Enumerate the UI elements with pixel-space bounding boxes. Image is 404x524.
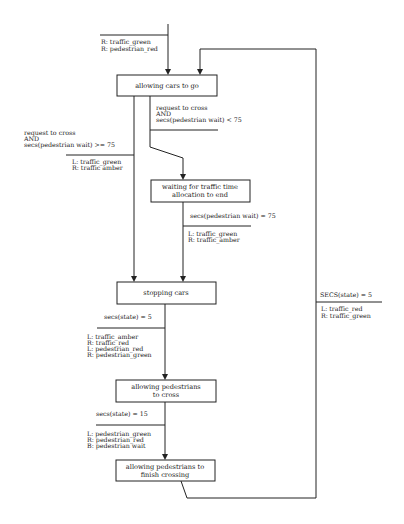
condition-label: secs(pedestrian wait) = 75 [190,212,276,220]
condition-label: SECS(state) = 5 [320,291,372,298]
state-label: stopping cars [143,289,189,297]
arrow-head-icon [180,174,186,180]
arrow-head-icon [162,454,168,460]
state-label: allocation to end [172,191,229,199]
state-label: waiting for traffic time [162,183,238,191]
state-stopping-cars: stopping cars [117,282,216,304]
state-label: allowing cars to go [135,82,199,90]
state-allowing-pedestrians-to-finish-crossing: allowing pedestrians to finish crossing [116,460,215,481]
action-label: R: pedestrian_green [87,351,152,359]
state-allowing-pedestrians-to-cross: allowing pedestrians to cross [116,380,216,402]
transition-s1-to-s2: request to cross AND secs(pedestrian wai… [150,96,242,180]
state-label: finish crossing [141,471,190,479]
state-transition-diagram: R: traffic_green R: pedestrian_red SECS(… [0,0,404,524]
transition-s4-to-s5: secs(state) = 15 L: pedestrian_green R: … [87,402,168,460]
state-allowing-cars-to-go: allowing cars to go [117,75,217,96]
action-label: R: traffic amber [72,164,124,171]
transition-s1-to-s3: request to cross AND secs(pedestrian wai… [23,96,137,282]
transition-s3-to-s4: secs(state) = 5 L: traffic_amber R: traf… [87,304,168,380]
arrow-head-icon [197,69,203,75]
state-label: allowing pedestrians to [126,463,204,471]
action-label: R: traffic_green [321,312,371,320]
action-label: R: traffic_amber [188,236,241,244]
transition-s2-to-s3: secs(pedestrian wait) = 75 L: traffic_gr… [180,202,276,282]
condition-label: secs(state) = 5 [104,313,152,320]
state-label: allowing pedestrians [131,383,201,391]
arrow-head-icon [165,69,171,75]
condition-label: secs(state) = 15 [96,410,148,417]
state-label: to cross [153,391,180,399]
transition-init: R: traffic_green R: pedestrian_red [100,24,171,75]
state-waiting-for-traffic-time: waiting for traffic time allocation to e… [151,180,250,202]
condition-label: secs(pedestrian wait) >= 75 [24,141,115,149]
action-label: R: pedestrian_red [101,45,158,53]
arrow-head-icon [180,276,186,282]
arrow-head-icon [162,374,168,380]
arrow-head-icon [131,276,137,282]
action-label: B: pedestrian wait [87,442,146,450]
condition-label: secs(pedestrian wait) < 75 [156,116,242,124]
